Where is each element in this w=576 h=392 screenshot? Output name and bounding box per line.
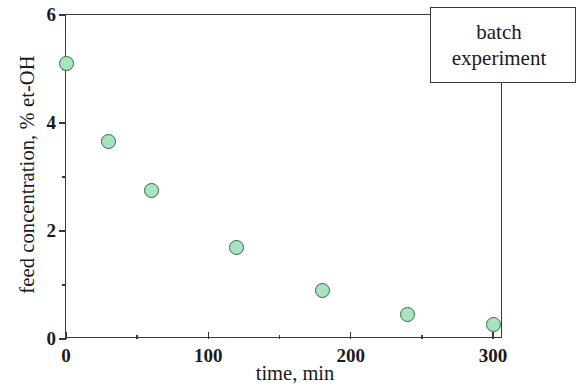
y-tick-major <box>59 122 66 124</box>
y-tick-minor <box>62 176 67 178</box>
x-axis-title: time, min <box>175 362 415 385</box>
y-tick-label: 6 <box>47 4 57 26</box>
annotation-box: batch experiment <box>430 7 576 83</box>
data-point-marker <box>315 283 330 298</box>
data-point-marker <box>486 317 501 332</box>
data-point-marker <box>400 307 415 322</box>
x-tick-major <box>65 332 67 339</box>
y-tick-minor <box>62 284 67 286</box>
annotation-line-1: batch <box>476 19 521 45</box>
x-tick-major <box>208 332 210 339</box>
x-tick-label: 0 <box>61 345 71 367</box>
x-tick-minor <box>136 335 138 340</box>
x-tick-minor <box>279 335 281 340</box>
y-tick-label: 4 <box>47 112 57 134</box>
y-tick-label: 0 <box>47 328 57 350</box>
x-tick-minor <box>421 335 423 340</box>
x-tick-major <box>350 332 352 339</box>
annotation-line-2: experiment <box>452 45 546 71</box>
data-point-marker <box>229 240 244 255</box>
data-point-marker <box>59 56 74 71</box>
y-axis-title: feed concentration, % et-OH <box>16 15 39 335</box>
y-tick-major <box>59 230 66 232</box>
x-tick-major <box>492 332 494 339</box>
x-tick-label: 300 <box>479 345 508 367</box>
y-tick-major <box>59 14 66 16</box>
data-point-marker <box>101 134 116 149</box>
y-tick-label: 2 <box>47 220 57 242</box>
data-point-marker <box>144 183 159 198</box>
